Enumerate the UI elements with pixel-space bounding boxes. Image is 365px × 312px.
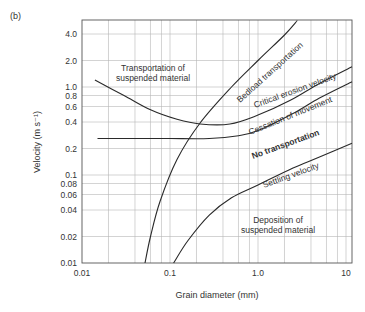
region-label-transport-suspended-1: Transportation of bbox=[121, 63, 186, 73]
y-tick-label: 0.6 bbox=[65, 102, 77, 112]
x-tick-label: 0.1 bbox=[164, 268, 176, 278]
y-tick-label: 4.0 bbox=[65, 29, 77, 39]
x-axis-label: Grain diameter (mm) bbox=[175, 290, 258, 300]
region-label-transport-suspended-2: suspended material bbox=[116, 73, 190, 83]
x-axis-ticks: 0.010.11.010 bbox=[74, 268, 351, 278]
curve-settling-velocity bbox=[174, 143, 352, 263]
velocity-grain-chart: (b) 4.02.01.00.80.60.40.20.10.080.060.04… bbox=[0, 0, 365, 312]
region-label-deposition-2: suspended material bbox=[241, 225, 315, 235]
y-tick-label: 2.0 bbox=[65, 56, 77, 66]
region-label-deposition-1: Deposition of bbox=[253, 215, 303, 225]
panel-label: (b) bbox=[10, 11, 21, 21]
y-tick-label: 0.04 bbox=[60, 205, 77, 215]
y-tick-label: 0.06 bbox=[60, 190, 77, 200]
y-tick-label: 0.02 bbox=[60, 232, 77, 242]
y-tick-label: 0.4 bbox=[65, 117, 77, 127]
x-tick-label: 0.01 bbox=[74, 268, 91, 278]
y-tick-label: 0.08 bbox=[60, 179, 77, 189]
x-tick-label: 1.0 bbox=[252, 268, 264, 278]
y-tick-label: 0.2 bbox=[65, 144, 77, 154]
x-tick-label: 10 bbox=[341, 268, 351, 278]
y-tick-label: 0.8 bbox=[65, 91, 77, 101]
y-axis-ticks: 4.02.01.00.80.60.40.20.10.080.060.040.02… bbox=[60, 29, 77, 268]
y-axis-label: Velocity (m s⁻¹) bbox=[32, 111, 42, 173]
y-tick-label: 0.01 bbox=[60, 258, 77, 268]
